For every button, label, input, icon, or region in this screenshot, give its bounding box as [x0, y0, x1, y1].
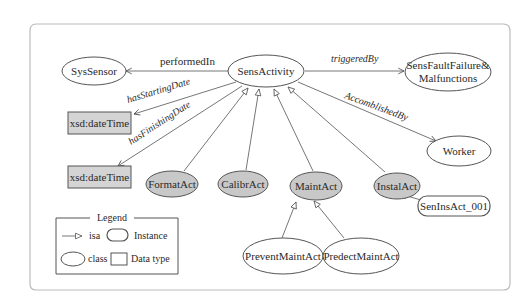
node-format-act: FormatAct	[146, 171, 198, 197]
svg-text:Worker: Worker	[443, 145, 476, 157]
node-sys-sensor: SysSensor	[62, 57, 126, 85]
ontology-diagram: performedIn triggeredBy hasStartingDate …	[0, 0, 532, 308]
node-datetime-start: xsd:dateTime	[68, 112, 131, 134]
edge-label-performed-in: performedIn	[160, 55, 215, 67]
node-sens-activity: SensActivity	[228, 55, 304, 87]
node-prevent-maint-act: PreventMaintAct	[243, 238, 323, 274]
svg-text:xsd:dateTime: xsd:dateTime	[70, 117, 130, 129]
node-sen-ins-act-001: SenInsAct_001	[418, 196, 490, 216]
legend-isa-label: isa	[89, 230, 101, 241]
svg-text:MaintAct: MaintAct	[295, 180, 337, 192]
svg-text:SensActivity: SensActivity	[238, 65, 295, 77]
svg-text:InstalAct: InstalAct	[377, 180, 417, 192]
legend-datatype-label: Data type	[131, 253, 170, 264]
legend-title: Legend	[97, 212, 127, 223]
edge-label-triggered-by: triggeredBy	[331, 53, 379, 64]
datatype-shape-icon	[111, 253, 127, 265]
node-sens-fault-failure: SensFaultFailure& Malfunctions	[405, 53, 491, 91]
svg-text:PredectMaintAct: PredectMaintAct	[323, 250, 398, 262]
node-predect-maint-act: PredectMaintAct	[323, 238, 399, 274]
legend-instance-label: Instance	[134, 230, 168, 241]
svg-text:xsd:dateTime: xsd:dateTime	[70, 171, 130, 183]
svg-text:SenInsAct_001: SenInsAct_001	[420, 200, 488, 212]
node-calibr-act: CalibrAct	[218, 171, 268, 197]
svg-text:SensFaultFailure&: SensFaultFailure&	[406, 59, 490, 71]
node-datetime-finish: xsd:dateTime	[68, 166, 131, 188]
node-worker: Worker	[427, 136, 491, 166]
svg-text:PreventMaintAct: PreventMaintAct	[245, 250, 321, 262]
node-instal-act: InstalAct	[374, 173, 420, 199]
svg-text:Malfunctions: Malfunctions	[419, 72, 478, 84]
svg-text:SysSensor: SysSensor	[71, 65, 117, 77]
instance-shape-icon	[107, 229, 128, 241]
node-maint-act: MaintAct	[290, 172, 342, 200]
svg-text:FormatAct: FormatAct	[148, 178, 196, 190]
legend-class-label: class	[88, 253, 108, 264]
class-shape-icon	[61, 252, 85, 266]
svg-text:CalibrAct: CalibrAct	[221, 178, 264, 190]
